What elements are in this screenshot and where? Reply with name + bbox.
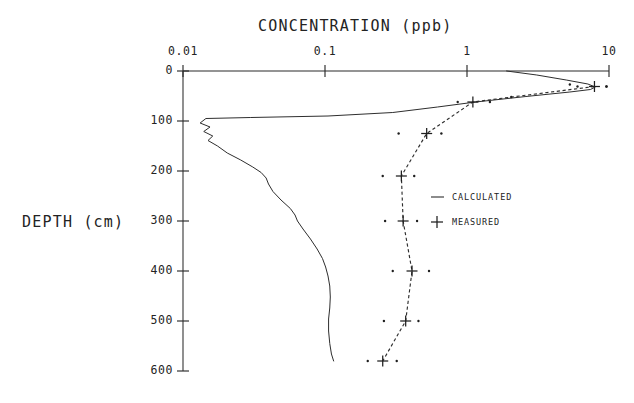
y-tick-label: 300 [131, 213, 173, 227]
calculated-curve [200, 71, 595, 361]
uncertainty-dot [428, 270, 430, 272]
uncertainty-dot [384, 220, 386, 222]
uncertainty-dot [456, 101, 458, 103]
uncertainty-dot [416, 220, 418, 222]
measured-point [467, 97, 478, 108]
legend-label-calculated: CALCULATED [452, 192, 512, 202]
y-tick-label: 200 [131, 163, 173, 177]
measured-point [421, 128, 432, 139]
uncertainty-dot [413, 175, 415, 177]
x-tick-label: 0.1 [307, 44, 343, 58]
y-tick-label: 400 [131, 263, 173, 277]
y-tick-label: 0 [131, 63, 173, 77]
y-tick-label: 600 [131, 363, 173, 377]
measured-point [377, 356, 388, 367]
measured-point [407, 266, 418, 277]
uncertainty-dot [569, 83, 571, 85]
measured-point [589, 81, 600, 92]
uncertainty-dot [383, 320, 385, 322]
legend-symbols [431, 197, 444, 228]
y-tick-label: 500 [131, 313, 173, 327]
uncertainty-dot [440, 132, 442, 134]
measured-point [398, 216, 409, 227]
axes-group [183, 71, 609, 371]
uncertainty-dot [489, 101, 491, 103]
uncertainty-dot [510, 96, 512, 98]
y-tick-label: 100 [131, 113, 173, 127]
concentration-depth-profile-figure: CONCENTRATION (ppb) DEPTH (cm) 0.010.111… [0, 0, 634, 403]
legend-label-measured: MEASURED [452, 217, 500, 227]
uncertainty-dot [396, 360, 398, 362]
uncertainty-dot [605, 85, 607, 87]
uncertainty-dot [392, 270, 394, 272]
uncertainty-dot [397, 132, 399, 134]
uncertainty-dot [382, 175, 384, 177]
measured-point [400, 316, 411, 327]
uncertainty-dot [367, 360, 369, 362]
x-tick-label: 0.01 [165, 44, 201, 58]
legend-measured-plus-icon [431, 216, 443, 228]
measured-point [396, 171, 407, 182]
x-tick-label: 10 [591, 44, 627, 58]
x-tick-label: 1 [449, 44, 485, 58]
uncertainty-dot [576, 85, 578, 87]
plot-canvas [0, 0, 634, 403]
uncertainty-dot [417, 320, 419, 322]
